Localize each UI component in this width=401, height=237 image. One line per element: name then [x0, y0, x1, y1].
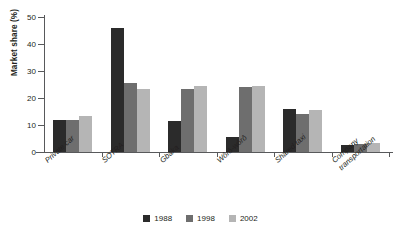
bar-2002-1 [137, 89, 150, 152]
bar-group [341, 17, 380, 152]
y-tick-label: 20 [16, 94, 36, 103]
bar-group [111, 17, 150, 152]
bar-2002-0 [79, 116, 92, 152]
y-tick-label: 50 [16, 13, 36, 22]
plot-area [44, 17, 389, 152]
bar-1998-1 [124, 83, 137, 152]
bar-group [168, 17, 207, 152]
x-axis-label: SOTRA [100, 158, 106, 165]
legend-label: 2002 [240, 214, 258, 223]
legend-swatch-icon [143, 215, 150, 222]
y-tick-label: 30 [16, 67, 36, 76]
y-tick-label: 40 [16, 40, 36, 49]
x-axis-label: Company transportation [330, 158, 343, 172]
x-tick-mark [389, 152, 390, 157]
x-axis-label: Gbaka [158, 158, 164, 165]
legend-swatch-icon [186, 215, 193, 222]
market-share-bar-chart: Market share (%) 01020304050 Private car… [0, 0, 401, 237]
legend-item-2002: 2002 [229, 214, 258, 223]
legend-label: 1988 [154, 214, 172, 223]
bar-2002-4 [309, 110, 322, 152]
chart-legend: 198819982002 [0, 214, 401, 223]
y-tick-mark [38, 152, 44, 153]
legend-swatch-icon [229, 215, 236, 222]
legend-label: 1998 [197, 214, 215, 223]
bar-2002-2 [194, 86, 207, 152]
legend-item-1988: 1988 [143, 214, 172, 223]
bar-2002-3 [252, 86, 265, 152]
bar-group [283, 17, 322, 152]
y-tick-label: 10 [16, 121, 36, 130]
bar-1988-1 [111, 28, 124, 152]
bar-group [53, 17, 92, 152]
bar-group [226, 17, 265, 152]
x-axis-label: Shared taxi [273, 158, 279, 165]
y-tick-label: 0 [16, 148, 36, 157]
x-axis-label: Private car [43, 158, 49, 165]
bar-1998-2 [181, 89, 194, 152]
legend-item-1998: 1998 [186, 214, 215, 223]
x-axis-label: Wôrô-wôrô [215, 158, 221, 165]
